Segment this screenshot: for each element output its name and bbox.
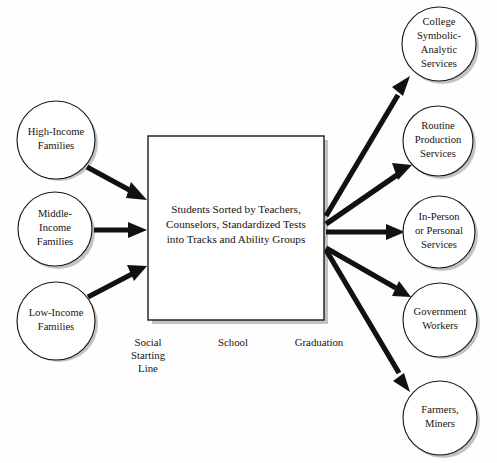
stage-label-school: School [218, 336, 248, 348]
node-low-income-families: Low-Income Families [17, 282, 95, 360]
node-middle-income-families: Middle- Income Families [18, 192, 92, 266]
label-in-person-line-3: Services [421, 239, 457, 250]
input-arrows [87, 167, 147, 297]
arrow-low-income-to-box [88, 265, 147, 297]
stage-label-social-line-2: Starting [131, 349, 166, 361]
label-low-income-line-1: Low-Income [29, 307, 84, 318]
node-high-income-families: High-Income Families [17, 101, 95, 179]
stage-graduation: Graduation [295, 336, 344, 348]
stage-school: School [218, 336, 248, 348]
node-college-symbolic-analytic-services: College Symbolic- Analytic Services [402, 7, 476, 81]
label-in-person-line-1: In-Person [418, 211, 460, 222]
node-in-person-or-personal-services: In-Person or Personal Services [403, 196, 475, 268]
label-in-person-line-2: or Personal [415, 225, 463, 236]
center-box-line-1: Students Sorted by Teachers, [171, 203, 301, 215]
label-government-line-1: Government [414, 306, 467, 317]
label-low-income-line-2: Families [38, 321, 75, 332]
label-college-line-1: College [423, 16, 456, 27]
label-college-line-2: Symbolic- [417, 30, 462, 41]
label-college-line-4: Services [421, 58, 457, 69]
center-box-line-3: into Tracks and Ability Groups [167, 233, 306, 245]
label-farmers-line-2: Miners [425, 418, 455, 429]
label-government-line-2: Workers [422, 320, 458, 331]
arrow-middle-income-to-box [94, 222, 147, 238]
node-routine-production-services: Routine Production Services [403, 106, 473, 176]
node-government-workers: Government Workers [403, 283, 477, 357]
stage-label-graduation: Graduation [295, 336, 344, 348]
label-routine-line-1: Routine [421, 120, 455, 131]
label-farmers-line-1: Farmers, [421, 404, 458, 415]
stage-social-starting-line: Social Starting Line [131, 336, 166, 374]
stage-label-social-line-1: Social [135, 336, 162, 348]
label-high-income-line-2: Families [38, 140, 75, 151]
label-high-income-line-1: High-Income [28, 126, 85, 137]
label-routine-line-2: Production [415, 134, 462, 145]
label-college-line-3: Analytic [421, 44, 458, 55]
flow-diagram: Students Sorted by Teachers, Counselors,… [0, 0, 497, 463]
arrow-high-income-to-box [87, 167, 147, 200]
center-box-line-2: Counselors, Standardized Tests [166, 218, 306, 230]
label-middle-income-line-3: Families [37, 236, 74, 247]
diagram-canvas: Students Sorted by Teachers, Counselors,… [0, 0, 497, 463]
arrow-box-to-in-person [326, 224, 405, 240]
label-middle-income-line-1: Middle- [38, 208, 73, 219]
label-routine-line-3: Services [420, 148, 456, 159]
label-middle-income-line-2: Income [39, 222, 71, 233]
node-farmers-miners: Farmers, Miners [403, 381, 477, 455]
stage-label-social-line-3: Line [138, 362, 158, 374]
